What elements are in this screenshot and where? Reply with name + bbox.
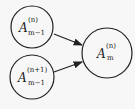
node-subscript: m (107, 54, 114, 62)
node-base: A (17, 71, 27, 85)
node-base: A (96, 47, 106, 61)
node-subscript: m−1 (28, 79, 45, 87)
node-subscript: m−1 (28, 29, 45, 37)
node-superscript: (n+1) (27, 66, 48, 74)
recurrence-diagram: A (n) m−1 A (n+1) m−1 A (n) m (0, 0, 135, 109)
edge-top-to-right-arrow (54, 34, 82, 45)
node-a-right: A (n) m (82, 28, 132, 78)
node-base: A (18, 21, 28, 35)
node-superscript: (n) (28, 16, 38, 24)
node-a-top: A (n) m−1 (11, 6, 53, 48)
edge-bottom-to-right-arrow (54, 62, 82, 72)
node-superscript: (n) (106, 42, 116, 50)
node-a-bottom: A (n+1) m−1 (10, 55, 54, 99)
